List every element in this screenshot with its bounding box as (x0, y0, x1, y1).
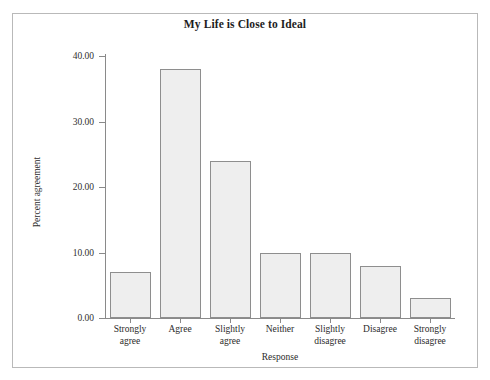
bar (360, 266, 401, 318)
x-tick-mark (280, 319, 281, 323)
bar (260, 253, 301, 319)
bar (110, 272, 151, 318)
x-tick-mark (180, 319, 181, 323)
chart-figure: My Life is Close to Ideal Percent agreem… (0, 0, 490, 380)
y-tick-mark (99, 318, 105, 319)
y-tick-mark (99, 122, 105, 123)
bar (410, 298, 451, 318)
x-tick-mark (330, 319, 331, 323)
y-tick-mark (99, 56, 105, 57)
x-tick-mark (380, 319, 381, 323)
y-tick-label: 40.00 (34, 51, 94, 61)
x-axis-title: Response (105, 352, 455, 362)
bar (160, 69, 201, 318)
y-tick-label: 10.00 (34, 248, 94, 258)
y-tick-label: 0.00 (34, 313, 94, 323)
x-tick-mark (230, 319, 231, 323)
y-tick-label: 20.00 (34, 182, 94, 192)
y-axis-line (105, 54, 106, 319)
bar (210, 161, 251, 318)
x-tick-label: Stronglydisagree (398, 324, 462, 347)
x-tick-mark (430, 319, 431, 323)
bar (310, 253, 351, 319)
y-tick-mark (99, 253, 105, 254)
y-tick-mark (99, 187, 105, 188)
x-tick-mark (130, 319, 131, 323)
chart-title: My Life is Close to Ideal (12, 18, 478, 30)
y-tick-label: 30.00 (34, 117, 94, 127)
